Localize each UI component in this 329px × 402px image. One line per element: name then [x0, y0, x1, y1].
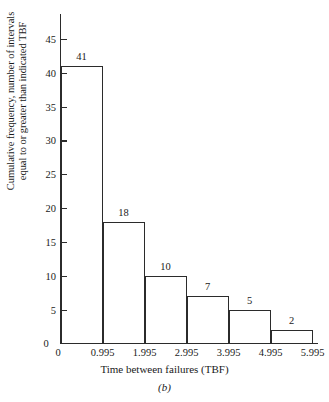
- y-axis-title-line-2: equal to or greater than indicated TBF: [17, 22, 30, 180]
- x-axis-title: Time between failures (TBF): [0, 363, 329, 375]
- y-tick-45: [61, 39, 67, 40]
- x-tick-label-3.995: 3.995: [217, 347, 241, 358]
- bar-value-label-3.995: 7: [205, 281, 210, 292]
- y-tick-label-25: 25: [36, 169, 56, 180]
- y-tick-label-35: 35: [36, 101, 56, 112]
- bar-4.995: [229, 310, 271, 345]
- y-tick-label-30: 30: [36, 135, 56, 146]
- bar-value-label-4.995: 5: [247, 295, 252, 306]
- bar-1.995: [103, 222, 145, 345]
- bar-value-label-2.995: 10: [160, 261, 171, 272]
- y-tick-label-15: 15: [36, 236, 56, 247]
- y-tick-label-20: 20: [36, 203, 56, 214]
- y-tick-label-10: 10: [36, 270, 56, 281]
- y-tick-label-0: 0: [43, 338, 48, 349]
- x-tick-label-4.995: 4.995: [259, 347, 283, 358]
- y-tick-label-40: 40: [36, 67, 56, 78]
- bar-2.995: [145, 276, 187, 345]
- x-tick-label-0.995: 0.995: [91, 347, 115, 358]
- y-axis-title-line-1: Cumulative frequency, number of interval…: [5, 12, 18, 190]
- bar-value-label-5.995: 2: [289, 315, 294, 326]
- x-tick-label-0: 0: [55, 347, 60, 358]
- x-tick-label-2.995: 2.995: [175, 347, 199, 358]
- bar-value-label-1.995: 18: [118, 207, 129, 218]
- bar-0.995: [61, 66, 103, 344]
- x-tick-label-1.995: 1.995: [133, 347, 157, 358]
- figure-container: Cumulative frequency, number of interval…: [0, 0, 329, 402]
- figure-caption: (b): [0, 381, 329, 393]
- y-axis-title: Cumulative frequency, number of interval…: [4, 1, 30, 201]
- bar-value-label-0.995: 41: [76, 51, 87, 62]
- x-tick-label-5.995: 5.995: [301, 347, 325, 358]
- y-tick-label-5: 5: [36, 304, 56, 315]
- bar-3.995: [187, 296, 229, 344]
- bar-5.995: [271, 330, 313, 345]
- y-tick-label-45: 45: [36, 34, 56, 45]
